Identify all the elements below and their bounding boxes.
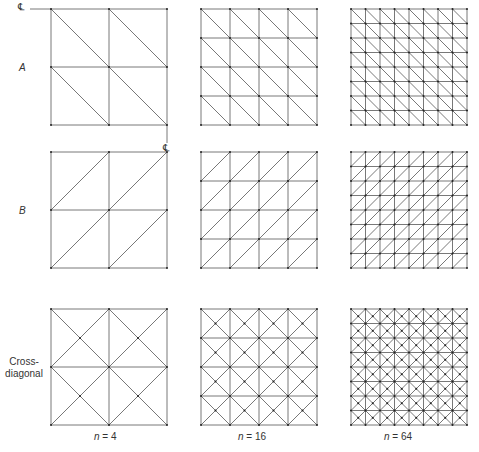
mesh-grids <box>0 0 479 452</box>
mesh-diagram: ℄ ℄ A B Cross- diagonal n = 4 n = 16 n =… <box>0 0 479 452</box>
column-label-n4: n = 4 <box>94 431 117 442</box>
row-label-cross-diagonal: Cross- diagonal <box>5 356 43 380</box>
n-value: = 16 <box>244 431 267 442</box>
row-label-b: B <box>19 205 26 216</box>
row-label-cross-line2: diagonal <box>5 368 43 379</box>
centerline-mark-middle: ℄ <box>163 143 169 153</box>
column-label-n16: n = 16 <box>238 431 266 442</box>
row-label-cross-line1: Cross- <box>9 356 38 367</box>
column-label-n64: n = 64 <box>384 431 412 442</box>
centerline-mark-top: ℄ <box>18 2 24 12</box>
n-value: = 4 <box>100 431 117 442</box>
row-label-a: A <box>19 62 26 73</box>
n-value: = 64 <box>390 431 413 442</box>
